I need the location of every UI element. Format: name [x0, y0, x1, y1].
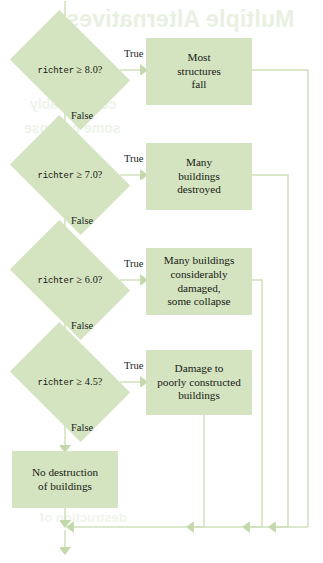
- flowchart-canvas: Multiple Alternatives considerably some …: [0, 0, 323, 563]
- decision-label: richter ≥ 8.0?: [38, 64, 103, 76]
- outcome-text-1: Most structures fall: [177, 51, 221, 92]
- decision-node-richter-7[interactable]: richter ≥ 7.0?: [20, 140, 120, 210]
- edge-return-3: [252, 280, 262, 527]
- decision-comparison: ≥ 8.0?: [76, 64, 102, 75]
- edge-return-2: [252, 175, 288, 527]
- decision-comparison: ≥ 4.5?: [76, 376, 102, 387]
- decision-node-richter-6[interactable]: richter ≥ 6.0?: [20, 245, 120, 315]
- outcome-box-many-buildings-damaged[interactable]: Many buildings considerably damaged, som…: [146, 248, 252, 315]
- decision-variable: richter: [38, 66, 74, 76]
- edge-label-false-3: False: [71, 320, 93, 331]
- outcome-box-damage-poorly-constructed[interactable]: Damage to poorly constructed buildings: [146, 350, 252, 415]
- outcome-box-most-structures-fall[interactable]: Most structures fall: [146, 38, 252, 105]
- decision-variable: richter: [38, 171, 74, 181]
- outcome-text-2: Many buildings destroyed: [177, 156, 221, 197]
- outcome-box-many-buildings-destroyed[interactable]: Many buildings destroyed: [146, 143, 252, 210]
- edge-label-false-1: False: [71, 110, 93, 121]
- outcome-text-default: No destruction of buildings: [32, 466, 98, 493]
- decision-variable: richter: [38, 378, 74, 388]
- edge-label-true-4: True: [124, 360, 143, 371]
- outcome-box-no-destruction[interactable]: No destruction of buildings: [12, 451, 118, 508]
- decision-node-richter-8[interactable]: richter ≥ 8.0?: [20, 35, 120, 105]
- decision-label: richter ≥ 4.5?: [38, 376, 103, 388]
- decision-comparison: ≥ 7.0?: [76, 169, 102, 180]
- decision-variable: richter: [38, 276, 74, 286]
- decision-node-richter-4-5[interactable]: richter ≥ 4.5?: [20, 347, 120, 417]
- outcome-text-3: Many buildings considerably damaged, som…: [164, 254, 235, 309]
- edge-label-true-2: True: [124, 153, 143, 164]
- edge-label-false-4: False: [71, 422, 93, 433]
- decision-comparison: ≥ 6.0?: [76, 274, 102, 285]
- edge-label-true-3: True: [124, 258, 143, 269]
- outcome-text-4: Damage to poorly constructed buildings: [157, 362, 241, 403]
- edge-label-true-1: True: [124, 48, 143, 59]
- decision-label: richter ≥ 7.0?: [38, 169, 103, 181]
- decision-label: richter ≥ 6.0?: [38, 274, 103, 286]
- edge-return-1: [252, 70, 308, 527]
- edge-label-false-2: False: [71, 215, 93, 226]
